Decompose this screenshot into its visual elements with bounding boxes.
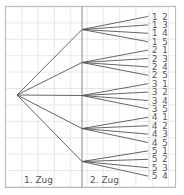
leaf-label: 5 4 <box>152 171 169 181</box>
tree-edge <box>82 162 148 168</box>
tree-edge <box>82 129 148 135</box>
tree-edge <box>82 129 148 143</box>
tree-edge <box>82 96 148 101</box>
tree-diagram: 1 21 31 41 52 12 32 42 53 13 23 43 54 14… <box>0 0 184 195</box>
level1-label: 1. Zug <box>24 175 53 185</box>
tree-edge <box>17 63 82 96</box>
tree-edge <box>17 95 82 129</box>
tree-edge <box>17 95 82 96</box>
tree-edge <box>82 96 148 109</box>
level2-label: 2. Zug <box>90 175 119 185</box>
tree-edges <box>17 12 149 180</box>
leaf-labels: 1 21 31 41 52 12 32 42 53 13 23 43 54 14… <box>152 12 169 182</box>
tree-edge <box>82 162 148 177</box>
